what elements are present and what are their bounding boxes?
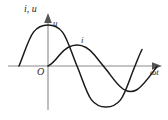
y-axis-label: i, u [24, 4, 37, 14]
y-axis-group [44, 13, 52, 110]
x-axis-group [8, 62, 162, 70]
waveform-figure: i, u ωt O u i [0, 0, 168, 120]
current-curve-label: i [81, 36, 84, 45]
waveform-canvas [0, 0, 168, 120]
y-axis-arrowhead [44, 13, 52, 23]
voltage-curve-label: u [53, 19, 58, 28]
origin-label: O [37, 67, 44, 77]
x-axis-label: ωt [150, 68, 159, 77]
